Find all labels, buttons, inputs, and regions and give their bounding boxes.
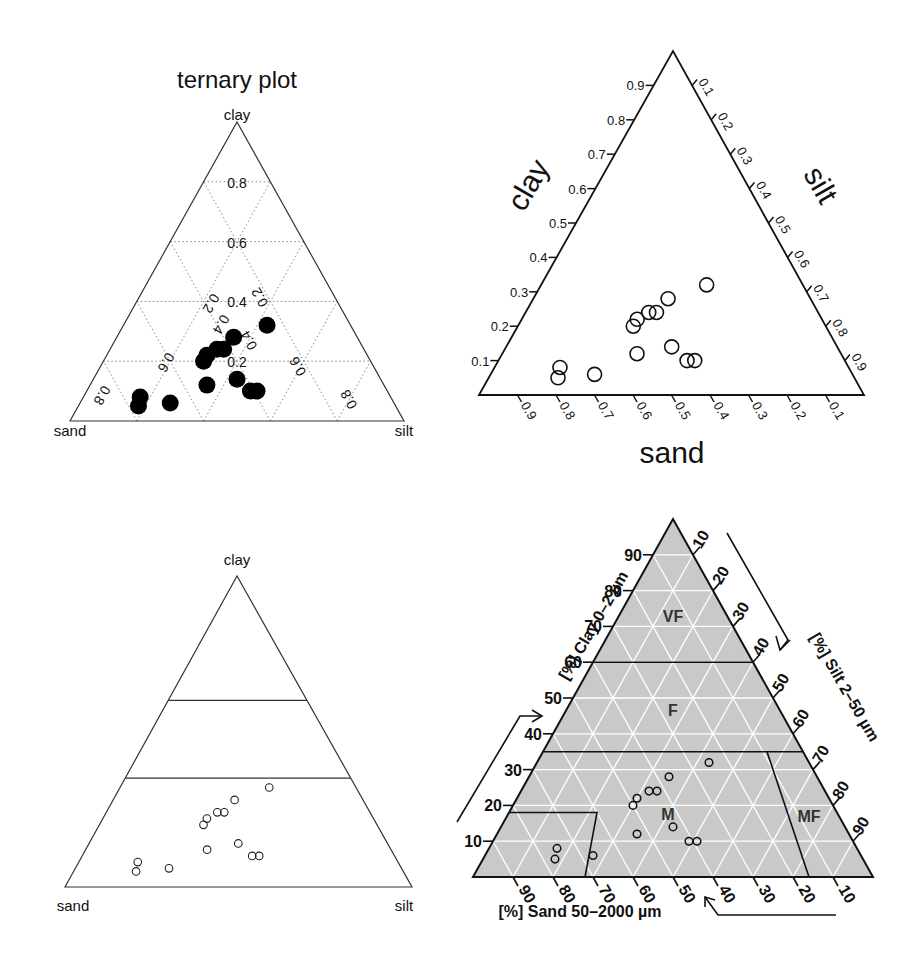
figure: ternary plot0.20.40.60.80.80.60.40.20.20… [0, 0, 919, 971]
sand-tick-label: 0.6 [633, 399, 655, 422]
sand-tick-label: 0.7 [595, 399, 617, 422]
data-point [700, 278, 714, 292]
silt-tick-label: 0.1 [696, 75, 718, 98]
data-point [588, 367, 602, 381]
sand-tick-label: 30 [755, 882, 779, 906]
clay-tick-label: 30 [504, 762, 522, 779]
clay-tick-label: 0.8 [227, 175, 247, 191]
axis-label-sand: sand [639, 436, 704, 469]
axis-label-silt: [%] Silt 2–50 µm [807, 630, 883, 744]
silt-tick-label: 0.4 [753, 179, 775, 202]
region-label: MF [797, 808, 820, 825]
data-point [630, 347, 644, 361]
silt-tick-label: 0.9 [848, 351, 870, 374]
data-point [134, 858, 142, 866]
data-point [231, 796, 239, 804]
silt-tick-label: 80 [829, 778, 853, 802]
axis-label-silt: silt [798, 161, 845, 210]
silt-tick-label: 0.3 [734, 144, 756, 167]
sand-tick-label: 0.8 [90, 383, 114, 408]
sand-tick-label: 0.3 [749, 399, 771, 422]
silt-tick-label: 10 [689, 527, 713, 551]
vertex-label-sand: sand [57, 897, 90, 914]
clay-tick-label: 10 [464, 833, 482, 850]
data-points [132, 784, 273, 876]
chart-title: ternary plot [177, 66, 297, 93]
silt-tick-label: 0.6 [791, 247, 813, 270]
data-points [551, 278, 714, 385]
sand-tick-label: 0.8 [556, 399, 578, 422]
sand-tick-label: 0.2 [787, 399, 809, 422]
vertex-label-clay: clay [224, 106, 251, 123]
sand-tick-label: 50 [675, 882, 699, 906]
silt-tick-label: 40 [749, 635, 773, 659]
data-point [265, 784, 273, 792]
data-point [551, 371, 565, 385]
data-point [553, 360, 567, 374]
clay-tick-label: 0.6 [568, 182, 586, 197]
clay-tick-label: 0.8 [607, 113, 625, 128]
triangle-frame [65, 576, 412, 887]
silt-tick-label: 0.5 [772, 213, 794, 236]
data-point [234, 840, 242, 848]
clay-tick-label: 50 [544, 690, 562, 707]
sand-tick-label: 20 [795, 882, 819, 906]
clay-tick-label: 0.7 [588, 147, 606, 162]
sand-tick-label: 0.4 [710, 399, 732, 422]
silt-tick-label: 30 [729, 599, 753, 623]
clay-tick-label: 0.2 [227, 354, 247, 370]
clay-tick-label: 90 [624, 547, 642, 564]
sand-tick-label: 0.1 [826, 399, 848, 422]
clay-tick-label: 0.6 [227, 235, 247, 251]
data-point [130, 398, 147, 415]
panel-ternary-plot: ternary plot0.20.40.60.80.80.60.40.20.20… [54, 66, 414, 439]
data-point [198, 377, 215, 394]
data-point [195, 353, 212, 370]
data-point [229, 371, 246, 388]
clay-tick-label: 0.5 [549, 216, 567, 231]
data-point [249, 383, 266, 400]
silt-tick-label: 0.7 [810, 282, 832, 305]
panel-ternary-classes: claysandsilt [57, 551, 414, 914]
silt-tick-label: 20 [709, 563, 733, 587]
sand-tick-label: 0.9 [518, 399, 540, 422]
region-label: VF [663, 608, 684, 625]
vertex-label-silt: silt [395, 422, 414, 439]
clay-tick-label: 0.1 [471, 354, 489, 369]
silt-tick-label: 0.8 [829, 316, 851, 339]
panel-texture-triangle: 1010102020203030304040405050506060607070… [457, 519, 883, 920]
vertex-label-sand: sand [54, 422, 87, 439]
sand-tick-label: 0.5 [672, 399, 694, 422]
data-point [661, 292, 675, 306]
data-point [200, 821, 208, 829]
data-point [215, 341, 232, 358]
clay-tick-label: 0.4 [530, 250, 548, 265]
silt-tick-label: 0.8 [337, 387, 361, 412]
clay-tick-label: 0.3 [510, 285, 528, 300]
region-label: F [668, 702, 678, 719]
data-point [165, 865, 173, 873]
silt-tick-label: 50 [769, 670, 793, 694]
axis-label-clay: clay [500, 153, 555, 216]
triangle-frame [479, 51, 864, 395]
vertex-label-clay: clay [224, 551, 251, 568]
data-point [162, 395, 179, 412]
sand-tick-label: 10 [835, 882, 859, 906]
clay-tick-label: 0.9 [627, 78, 645, 93]
data-point [203, 846, 211, 854]
clay-tick-label: 40 [524, 726, 542, 743]
silt-tick-label: 0.2 [715, 110, 737, 133]
silt-tick-label: 0.2 [248, 285, 272, 310]
clay-tick-label: 0.2 [491, 319, 509, 334]
silt-tick-label: 70 [809, 742, 833, 766]
region-label: M [661, 806, 674, 823]
clay-tick-label: 20 [484, 797, 502, 814]
axis-label-sand: [%] Sand 50–2000 µm [498, 903, 661, 920]
data-points [130, 317, 276, 415]
vertex-label-silt: silt [395, 897, 414, 914]
panel-ternary-axes: 0.10.10.10.20.20.20.30.30.30.40.40.40.50… [471, 51, 870, 469]
silt-tick-label: 90 [849, 814, 873, 838]
clay-tick-label: 0.4 [227, 294, 247, 310]
silt-tick-label: 60 [789, 706, 813, 730]
data-point [132, 868, 140, 876]
